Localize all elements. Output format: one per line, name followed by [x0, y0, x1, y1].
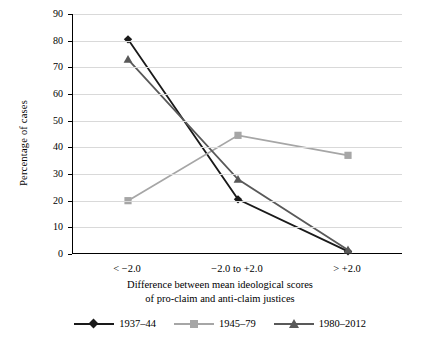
gridline: [73, 147, 402, 148]
y-axis-tick-label: 70: [53, 62, 63, 72]
legend-label: 1937–44: [119, 318, 156, 329]
legend-triangle-icon: [289, 319, 299, 328]
y-axis-tick-mark: [68, 201, 72, 202]
gridline: [73, 227, 402, 228]
x-axis-tick-label: < −2.0: [67, 263, 187, 274]
gridline: [73, 67, 402, 68]
legend-item[interactable]: 1937–44: [74, 318, 156, 329]
x-axis-title-line2: of pro-claim and anti-claim justices: [0, 292, 440, 306]
x-axis-title-line1: Difference between mean ideological scor…: [0, 278, 440, 292]
series-marker: [234, 132, 241, 139]
y-axis-tick-label: 0: [58, 249, 63, 259]
legend-swatch: [74, 319, 114, 329]
y-axis-tick-label: 60: [53, 89, 63, 99]
series-marker: [124, 55, 133, 63]
y-axis-tick-label: 80: [53, 36, 63, 46]
gridline: [73, 94, 402, 95]
y-axis-tick-mark: [68, 67, 72, 68]
legend-item[interactable]: 1980–2012: [274, 318, 366, 329]
series-line: [128, 39, 348, 251]
y-axis-tick-label: 90: [53, 9, 63, 19]
chart-container: Percentage of cases 0102030405060708090 …: [0, 0, 440, 347]
plot-area: [72, 14, 402, 254]
gridline: [73, 14, 402, 15]
gridline: [73, 41, 402, 42]
y-axis-tick-label: 20: [53, 196, 63, 206]
series-marker: [344, 152, 351, 159]
x-axis-tick-label: −2.0 to +2.0: [177, 263, 297, 274]
gridline: [73, 174, 402, 175]
y-axis-tick-mark: [68, 14, 72, 15]
y-axis-tick-mark: [68, 94, 72, 95]
gridline: [73, 121, 402, 122]
y-axis-tick-label: 40: [53, 142, 63, 152]
legend-diamond-icon: [89, 319, 99, 329]
y-axis-tick-label: 30: [53, 169, 63, 179]
legend: 1937–441945–791980–2012: [0, 318, 440, 329]
y-axis-tick-mark: [68, 121, 72, 122]
y-axis-tick-label: 50: [53, 116, 63, 126]
gridline: [73, 201, 402, 202]
legend-square-icon: [190, 320, 198, 328]
x-axis-tick-label: > +2.0: [287, 263, 407, 274]
y-axis-tick-label: 10: [53, 222, 63, 232]
y-axis-tick-mark: [68, 254, 72, 255]
legend-swatch: [274, 319, 314, 329]
legend-swatch: [174, 319, 214, 329]
legend-item[interactable]: 1945–79: [174, 318, 256, 329]
series-line: [128, 135, 348, 200]
y-axis-title: Percentage of cases: [18, 100, 29, 186]
y-axis-tick-mark: [68, 41, 72, 42]
y-axis-tick-mark: [68, 147, 72, 148]
legend-label: 1945–79: [219, 318, 256, 329]
y-axis-tick-mark: [68, 227, 72, 228]
series-layer: [73, 14, 403, 254]
legend-label: 1980–2012: [319, 318, 366, 329]
y-axis-tick-mark: [68, 174, 72, 175]
